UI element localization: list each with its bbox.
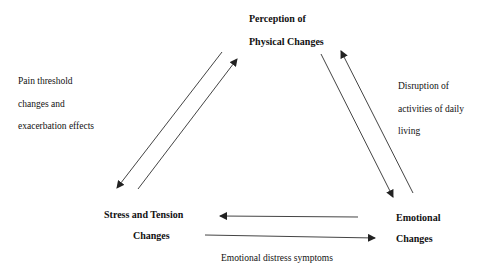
edge-label-bottom-line-1: Emotional distress symptoms (221, 254, 333, 264)
edge-label-emotional-distress: Emotional distress symptoms (0, 0, 484, 278)
